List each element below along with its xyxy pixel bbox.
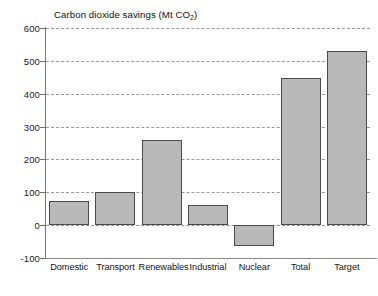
- bar-chart: Carbon dioxide savings (Mt CO2) 60050040…: [0, 0, 378, 296]
- x-label-renewables: Renewables: [139, 262, 185, 272]
- y-tick-label-500: 500: [24, 55, 40, 66]
- y-tick-label-100: 100: [24, 187, 40, 198]
- bar-total[interactable]: [281, 78, 321, 225]
- bar-domestic[interactable]: [49, 201, 89, 226]
- y-tick-label--100: -100: [21, 253, 40, 264]
- bar-transport[interactable]: [95, 192, 135, 225]
- x-label-total: Total: [277, 262, 323, 272]
- x-label-transport: Transport: [92, 262, 138, 272]
- bar-industrial[interactable]: [188, 205, 228, 225]
- y-tick-label-300: 300: [24, 121, 40, 132]
- x-label-target: Target: [324, 262, 370, 272]
- bar-target[interactable]: [327, 51, 367, 225]
- y-tick-label-400: 400: [24, 88, 40, 99]
- y-tick-label-600: 600: [24, 23, 40, 34]
- bar-renewables[interactable]: [142, 140, 182, 225]
- bars-layer: [46, 28, 370, 258]
- x-label-domestic: Domestic: [46, 262, 92, 272]
- x-label-industrial: Industrial: [185, 262, 231, 272]
- x-axis-line: [45, 258, 377, 259]
- chart-title: Carbon dioxide savings (Mt CO2): [54, 9, 197, 20]
- y-tick--100: [40, 258, 46, 259]
- bar-nuclear[interactable]: [234, 225, 274, 246]
- y-axis-tick-labels: 6005004003002001000-100: [6, 28, 40, 258]
- chart-title-tail: ): [194, 9, 197, 20]
- y-tick-label-200: 200: [24, 154, 40, 165]
- plot-area: [46, 28, 370, 258]
- chart-title-main: Carbon dioxide savings (Mt CO: [54, 9, 190, 20]
- chart-title-subscript: 2: [190, 14, 194, 21]
- x-label-nuclear: Nuclear: [231, 262, 277, 272]
- x-axis-category-labels: DomesticTransportRenewablesIndustrialNuc…: [46, 262, 370, 278]
